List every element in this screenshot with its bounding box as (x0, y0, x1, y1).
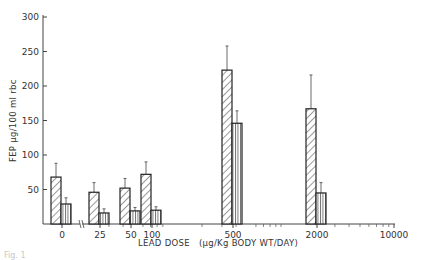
bar-group-0 (51, 163, 71, 224)
bar-hatched (120, 188, 130, 224)
bar-chart: 50100150200250300 FEP µg/100 ml rbc 0255… (0, 0, 422, 260)
y-tick-label: 100 (22, 150, 39, 160)
bar-group-2000 (306, 75, 326, 224)
bar-group-500 (222, 46, 242, 224)
x-tick-label: 25 (94, 230, 105, 240)
y-axis-title: FEP µg/100 ml rbc (8, 79, 18, 162)
bar-hatched (89, 192, 99, 224)
bar-hatched (222, 70, 232, 224)
x-tick-label: 2000 (306, 230, 329, 240)
y-tick-label: 150 (22, 116, 39, 126)
bar-group-100 (141, 162, 161, 224)
bar-vertical (232, 123, 242, 224)
x-tick-label: 10000 (380, 230, 409, 240)
x-tick-label: 50 (125, 230, 137, 240)
y-tick-label: 250 (22, 47, 39, 57)
bar-group-25 (89, 183, 109, 224)
bar-vertical (151, 210, 161, 224)
figure-caption: Fig. 1 (4, 251, 26, 260)
bar-vertical (99, 213, 109, 224)
bar-vertical (61, 204, 71, 224)
y-axis: 50100150200250300 FEP µg/100 ml rbc (8, 12, 47, 224)
bar-hatched (51, 177, 61, 224)
bar-hatched (306, 109, 316, 224)
bar-groups (51, 46, 326, 224)
y-tick-label: 50 (28, 185, 40, 195)
bar-vertical (130, 211, 140, 224)
bar-hatched (141, 174, 151, 224)
bar-vertical (316, 193, 326, 224)
x-axis-title: LEAD DOSE (µg/Kg BODY WT/DAY) (138, 238, 298, 248)
bar-group-50 (120, 178, 140, 224)
x-tick-label: 0 (59, 230, 65, 240)
y-tick-label: 300 (22, 12, 39, 22)
y-tick-label: 200 (22, 81, 39, 91)
